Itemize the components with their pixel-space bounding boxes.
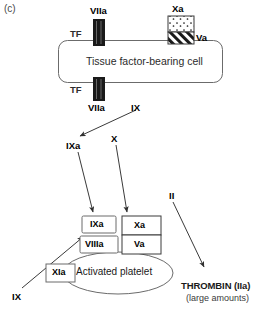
diagram-vector-layer	[0, 0, 255, 311]
arrow-x-to-complex	[116, 145, 127, 212]
va-box-label: Va	[134, 240, 145, 249]
x-label-mid: X	[111, 134, 117, 144]
arrow-ii-to-thrombin	[173, 202, 204, 267]
va-label-top: Va	[196, 33, 207, 43]
viiia-box-label: VIIIa	[85, 240, 104, 249]
thrombin-amount-label: (large amounts)	[186, 294, 249, 303]
tf-label-top: TF	[70, 29, 82, 39]
xa-label-top: Xa	[172, 4, 184, 14]
ix-label-top: IX	[131, 103, 140, 113]
ii-label-mid: II	[169, 191, 174, 201]
arrow-ixa-to-complex	[78, 152, 93, 212]
arrow-ix-to-ixa	[80, 110, 136, 136]
tf-viia-complex-bottom	[93, 77, 105, 101]
thrombin-label: THROMBIN (IIa)	[181, 281, 250, 291]
activated-platelet-label: Activated platelet	[76, 267, 152, 277]
ixa-label-mid: IXa	[66, 141, 80, 151]
cell-title: Tissue factor-bearing cell	[86, 56, 203, 67]
xa-box-label: Xa	[134, 221, 145, 230]
tf-label-bottom: TF	[70, 85, 82, 95]
xia-box-label: XIa	[52, 268, 66, 277]
xa-block-top	[168, 16, 194, 32]
ix-label-bottom: IX	[12, 292, 21, 302]
panel-label: (c)	[4, 4, 16, 14]
va-block-top	[168, 32, 194, 44]
viia-label-bottom: VIIa	[88, 103, 105, 113]
coagulation-cascade-figure: (c) VIIa TF Xa Va Tissue factor-bearing …	[0, 0, 255, 311]
tf-viia-complex-top	[93, 19, 105, 46]
viia-label-top: VIIa	[90, 6, 107, 16]
ixa-box-label: IXa	[90, 220, 104, 229]
